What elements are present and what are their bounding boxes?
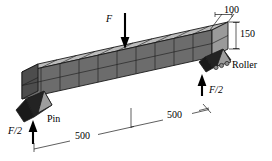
roller-circle-1	[214, 65, 218, 69]
applied-force-label: F	[106, 14, 112, 24]
dimension-150-label: 150	[240, 29, 255, 39]
beam-diagram-svg	[0, 0, 272, 161]
roller-circle-3	[225, 61, 229, 65]
left-reaction-head	[29, 120, 38, 132]
applied-force-arrow	[121, 13, 130, 49]
dimension-span-right-label: 500	[167, 110, 182, 120]
roller-support-label: Roller	[232, 60, 257, 70]
right-reaction-label: F/2	[209, 85, 223, 95]
right-reaction-head	[198, 74, 207, 86]
dimension-150	[229, 22, 240, 49]
pin-support-label: Pin	[47, 114, 60, 124]
left-reaction-label: F/2	[8, 126, 22, 136]
beam-figure: 100 150 500 500 F F/2 F/2 Pin Roller	[0, 0, 272, 161]
roller-circle-2	[219, 63, 223, 67]
dimension-100-label: 100	[224, 5, 239, 15]
right-reaction-arrow	[198, 74, 207, 96]
left-reaction-arrow	[29, 120, 38, 144]
dimension-span	[34, 104, 211, 152]
dimension-span-left-label: 500	[75, 131, 90, 141]
